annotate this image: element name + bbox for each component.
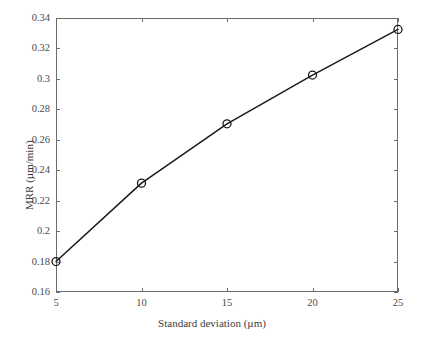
y-axis-tick-label: 0.32 [6, 43, 50, 54]
x-axis-tick-label: 15 [207, 298, 247, 309]
y-axis-tick-label: 0.18 [6, 257, 50, 268]
y-axis-tick-label: 0.16 [6, 287, 50, 298]
y-axis-tick-label: 0.3 [6, 74, 50, 85]
x-axis-tick-label: 20 [293, 298, 333, 309]
y-axis-tick-label: 0.28 [6, 104, 50, 115]
y-axis-tick-label: 0.34 [6, 13, 50, 24]
x-axis-tick-label: 5 [36, 298, 76, 309]
plot-frame [57, 19, 398, 292]
x-axis-tick-label: 25 [378, 298, 418, 309]
x-axis-title: Standard deviation (µm) [0, 318, 424, 329]
y-axis-tick-label: 0.2 [6, 226, 50, 237]
chart-figure: 0.160.180.20.220.240.260.280.30.320.34 5… [0, 0, 424, 340]
x-axis-tick-label: 10 [122, 298, 162, 309]
chart-canvas [0, 0, 424, 340]
y-axis-title: MRR (µm/min) [24, 140, 35, 210]
